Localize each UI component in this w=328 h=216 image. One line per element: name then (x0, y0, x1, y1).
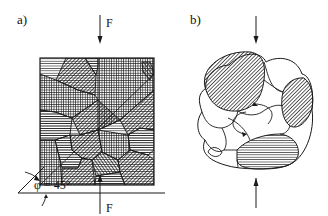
hatched-grain (237, 134, 298, 169)
polycrystal-grains (40, 58, 154, 185)
force-bottom-label: F (106, 201, 113, 215)
panel-b-label: b) (190, 12, 201, 27)
force-arrow-bottom (98, 174, 103, 214)
panel-a: a) F (17, 12, 165, 215)
arrowhead-down-icon (254, 36, 259, 44)
arrowhead-up-icon (254, 178, 259, 186)
arrowhead-down-icon (98, 36, 103, 44)
rotation-arrow (233, 112, 246, 134)
force-top-label: F (106, 16, 113, 30)
angle-label: φ = 45° (34, 178, 71, 192)
hatched-grain (282, 78, 313, 127)
force-arrow-top-b (254, 16, 259, 44)
arrowhead-up-icon (44, 194, 48, 198)
force-arrow-top (98, 15, 103, 44)
deformed-grain-aggregate (198, 52, 313, 169)
figure-canvas: a) F (0, 0, 328, 216)
force-arrow-bottom-b (254, 178, 259, 208)
panel-a-label: a) (17, 12, 27, 27)
panel-b: b) (190, 12, 313, 208)
hatched-grain (204, 52, 264, 111)
